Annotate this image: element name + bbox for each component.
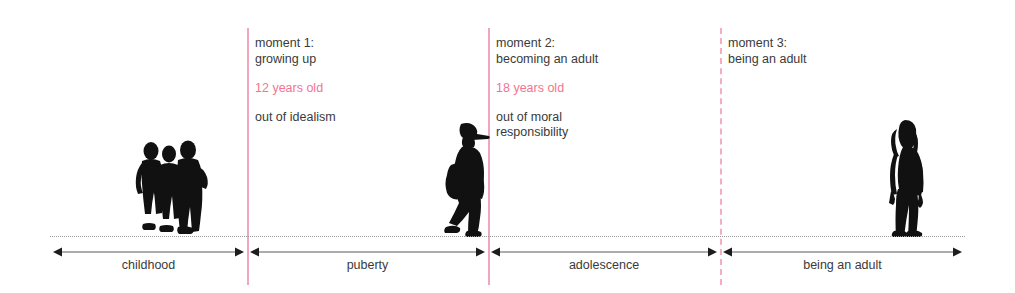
moment-age-1: 12 years old [255,81,445,97]
moment-age-2: 18 years old [496,81,686,97]
moment-description-1: out of idealism [255,110,445,126]
children-group-silhouette-icon [131,139,209,238]
stage-label-adolescence: adolescence [488,258,720,272]
ground-line [50,236,965,237]
teenager-silhouette-icon [437,121,493,238]
stage-label-childhood: childhood [50,258,247,272]
moment-block-3: moment 3: being an adult [728,36,918,67]
life-stages-timeline-diagram: moment 1: growing up 12 years old out of… [0,0,1015,293]
moment-title-3: moment 3: being an adult [728,36,918,67]
moment-description-2: out of moral responsibility [496,110,686,141]
moment-title-1: moment 1: growing up [255,36,445,67]
stage-label-puberty: puberty [247,258,488,272]
moment-block-1: moment 1: growing up 12 years old out of… [255,36,445,125]
moment-title-2: moment 2: becoming an adult [496,36,686,67]
adult-woman-silhouette-icon [881,119,929,238]
stage-label-being-an-adult: being an adult [720,258,965,272]
moment-block-2: moment 2: becoming an adult 18 years old… [496,36,686,141]
